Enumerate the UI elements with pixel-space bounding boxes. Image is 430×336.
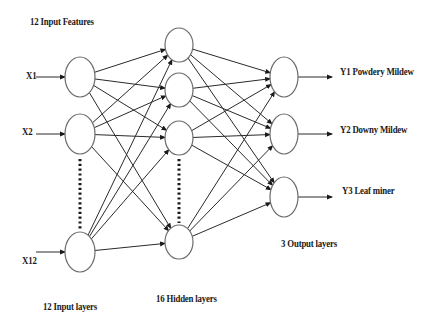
input-layer-caption: 12 Input layers bbox=[43, 301, 97, 312]
edge-input1-hidden1 bbox=[95, 49, 166, 72]
hidden-node-1 bbox=[165, 28, 193, 62]
input-node-2 bbox=[65, 114, 95, 154]
neural-network-diagram bbox=[0, 0, 430, 336]
diagram-title: 12 Input Features bbox=[30, 16, 94, 27]
edge-hidden1-output3 bbox=[188, 58, 274, 183]
input-label-x12: X12 bbox=[22, 255, 37, 266]
edge-hidden4-output2 bbox=[190, 146, 273, 231]
edge-input2-hidden3 bbox=[95, 135, 165, 138]
edge-hidden3-output3 bbox=[192, 145, 271, 190]
output-node-1 bbox=[270, 57, 298, 97]
output-label-y2: Y2 Downy Mildew bbox=[340, 124, 407, 135]
hidden-node-2 bbox=[165, 73, 193, 107]
edge-input2-hidden4 bbox=[92, 147, 169, 231]
output-layer-caption: 3 Output layers bbox=[281, 238, 337, 249]
nodes bbox=[65, 28, 298, 272]
input-label-x1: X1 bbox=[26, 70, 36, 81]
edge-input3-hidden3 bbox=[91, 150, 168, 239]
edge-hidden4-output3 bbox=[192, 203, 270, 237]
output-label-y3: Y3 Leaf miner bbox=[342, 185, 394, 196]
edge-hidden1-output1 bbox=[193, 49, 271, 73]
edge-input1-hidden2 bbox=[95, 79, 165, 88]
edge-hidden2-output1 bbox=[193, 79, 270, 89]
input-label-x2: X2 bbox=[22, 126, 32, 137]
edge-hidden3-output2 bbox=[193, 135, 270, 138]
hidden-layer-caption: 16 Hidden layers bbox=[156, 293, 217, 304]
edge-input3-hidden2 bbox=[89, 104, 170, 237]
input-node-3 bbox=[65, 232, 95, 272]
output-node-3 bbox=[270, 177, 298, 217]
output-label-y1: Y1 Powdery Mildew bbox=[340, 66, 414, 77]
edge-input2-hidden1 bbox=[92, 55, 167, 123]
input-node-1 bbox=[65, 57, 95, 97]
edge-hidden1-output2 bbox=[190, 55, 271, 124]
hidden-node-3 bbox=[165, 121, 193, 155]
hidden-node-4 bbox=[165, 225, 193, 259]
output-node-2 bbox=[270, 114, 298, 154]
edge-input3-hidden4 bbox=[95, 243, 165, 250]
